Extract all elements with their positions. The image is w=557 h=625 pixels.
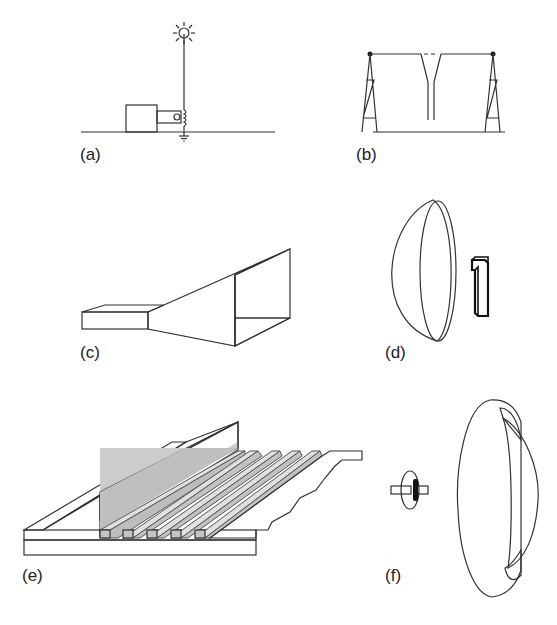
panel-label-b: (b) [356,145,377,164]
radiation-sun-icon [173,22,195,44]
tower-left [362,54,377,132]
dipole-feed-icon [391,471,428,509]
panel-label-f: (f) [385,566,401,585]
coil-icon [184,110,186,126]
feed-element-icon [472,257,488,316]
reflector-dish [392,200,451,341]
panel-c-horn-antenna: (c) [80,249,290,362]
panel-label-d: (d) [385,343,406,362]
tower-right [485,54,500,132]
panel-label-c: (c) [80,343,100,362]
panel-e-corrugated-surface-antenna: (e) [22,422,362,585]
panel-label-a: (a) [80,145,101,164]
transmitter-box [126,105,157,132]
panel-d-parabolic-reflector: (d) [385,200,488,362]
panel-b-tower-wire-antenna: (b) [356,52,505,165]
panel-f-lens-antenna: (f) [385,400,538,597]
connector [157,111,181,123]
panel-label-e: (e) [22,566,43,585]
feed-line [421,54,428,120]
panel-a-monopole-antenna: (a) [80,22,275,164]
ground-icon [179,132,189,141]
